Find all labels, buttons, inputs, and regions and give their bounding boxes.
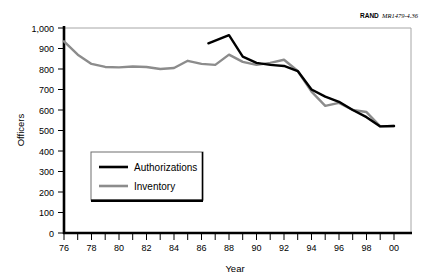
y-tick-label-900: 900 [39,44,54,54]
rand-brand-label: RAND [360,12,379,19]
legend: Authorizations Inventory [91,152,203,201]
y-tick-label-0: 0 [49,229,54,239]
x-tick-label-94: 94 [306,243,316,253]
officers-line-chart: RAND MR1479-4.36 1,000 900 800 700 600 5… [0,0,430,280]
y-tick-label-400: 400 [39,147,54,157]
x-tick-label-96: 96 [334,243,344,253]
x-tick-label-86: 86 [196,243,206,253]
x-tick-label-98: 98 [361,243,371,253]
legend-box [91,152,203,200]
y-axis-title: Officers [15,113,26,146]
y-tick-label-500: 500 [39,126,54,136]
y-tick-label-100: 100 [39,208,54,218]
y-tick-label-700: 700 [39,85,54,95]
x-tick-label-82: 82 [141,243,151,253]
x-axis-title: Year [225,263,244,274]
y-tick-label-1000: 1,000 [31,24,54,34]
y-tick-label-800: 800 [39,65,54,75]
x-tick-label-88: 88 [224,243,234,253]
x-tick-label-78: 78 [86,243,96,253]
rand-identifier-label: MR1479-4.36 [381,12,419,19]
x-tick-label-76: 76 [59,243,69,253]
legend-label-authorizations: Authorizations [134,162,197,173]
y-tick-label-300: 300 [39,167,54,177]
x-tick-label-84: 84 [169,243,179,253]
chart-figure: RAND MR1479-4.36 1,000 900 800 700 600 5… [0,0,430,280]
x-tick-label-90: 90 [251,243,261,253]
y-tick-label-200: 200 [39,188,54,198]
legend-label-inventory: Inventory [134,181,175,192]
x-tick-label-00: 00 [389,243,399,253]
y-tick-label-600: 600 [39,106,54,116]
x-tick-label-92: 92 [279,243,289,253]
x-tick-label-80: 80 [114,243,124,253]
